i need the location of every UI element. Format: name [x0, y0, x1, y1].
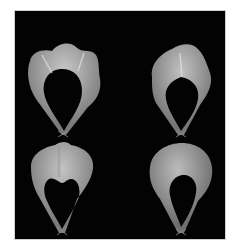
shape-bottom-right: [146, 137, 216, 237]
figure-panel: [14, 10, 226, 240]
shape-bottom-left: [25, 137, 99, 237]
shape-top-right: [146, 39, 216, 139]
shape-top-left: [22, 39, 104, 139]
